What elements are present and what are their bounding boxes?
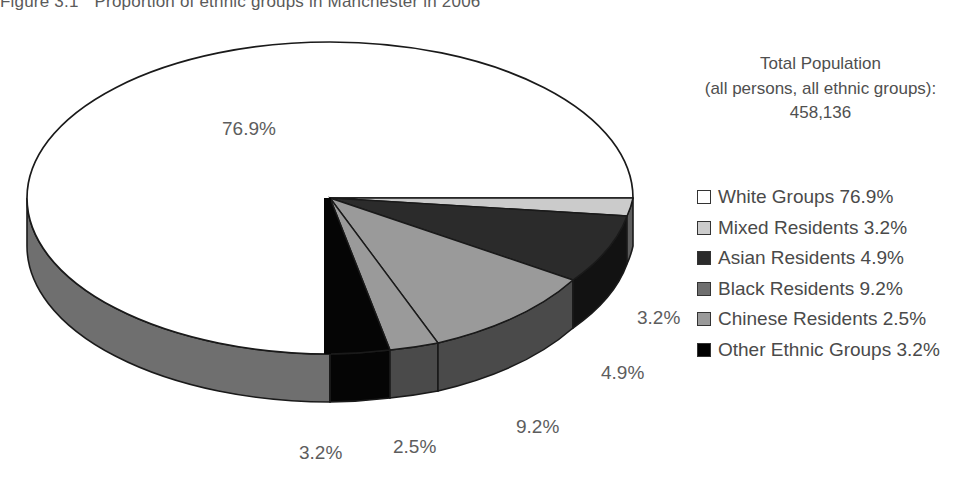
legend-item-chinese-residents[interactable]: Chinese Residents 2.5% <box>697 304 940 335</box>
total-population-line-2: (all persons, all ethnic groups): <box>672 77 969 102</box>
legend-label-white-groups: White Groups 76.9% <box>718 186 893 208</box>
legend-swatch-asian-residents <box>697 251 711 265</box>
pie-centre-shadow <box>324 198 331 354</box>
legend-item-mixed-residents[interactable]: Mixed Residents 3.2% <box>697 213 940 244</box>
legend-label-black-residents: Black Residents 9.2% <box>718 278 903 300</box>
figure-title: Figure 3.1Proportion of ethnic groups in… <box>0 0 480 12</box>
total-population-block: Total Population (all persons, all ethni… <box>672 52 969 126</box>
legend-label-other-ethnic-groups: Other Ethnic Groups 3.2% <box>718 339 940 361</box>
legend-label-mixed-residents: Mixed Residents 3.2% <box>718 217 907 239</box>
pie-chart-graphic <box>14 30 674 440</box>
legend-swatch-mixed-residents <box>697 221 711 235</box>
slice-label-asian-residents: 4.9% <box>601 362 644 384</box>
legend-item-white-groups[interactable]: White Groups 76.9% <box>697 182 940 213</box>
pie-chart: 76.9% 3.2% 4.9% 9.2% 2.5% 3.2% <box>14 30 674 440</box>
legend-swatch-white-groups <box>697 190 711 204</box>
legend-swatch-black-residents <box>697 282 711 296</box>
slice-side-other-ethnic-groups <box>330 350 390 402</box>
slice-label-black-residents: 9.2% <box>516 416 559 438</box>
figure-number: Figure 3.1 <box>0 0 79 11</box>
figure-caption: Proportion of ethnic groups in Mancheste… <box>95 0 481 11</box>
legend-item-black-residents[interactable]: Black Residents 9.2% <box>697 274 940 305</box>
legend-item-other-ethnic-groups[interactable]: Other Ethnic Groups 3.2% <box>697 335 940 366</box>
slice-label-other-ethnic-groups: 3.2% <box>299 442 342 464</box>
legend: White Groups 76.9% Mixed Residents 3.2% … <box>697 182 940 365</box>
legend-item-asian-residents[interactable]: Asian Residents 4.9% <box>697 243 940 274</box>
slice-label-chinese-residents: 2.5% <box>393 436 436 458</box>
total-population-value: 458,136 <box>672 101 969 126</box>
slice-label-mixed-residents: 3.2% <box>637 307 680 329</box>
slice-label-white-groups: 76.9% <box>222 118 276 140</box>
legend-label-chinese-residents: Chinese Residents 2.5% <box>718 308 926 330</box>
total-population-line-1: Total Population <box>672 52 969 77</box>
legend-swatch-other-ethnic-groups <box>697 343 711 357</box>
legend-label-asian-residents: Asian Residents 4.9% <box>718 247 904 269</box>
legend-swatch-chinese-residents <box>697 312 711 326</box>
slice-side-chinese-residents <box>390 343 438 398</box>
